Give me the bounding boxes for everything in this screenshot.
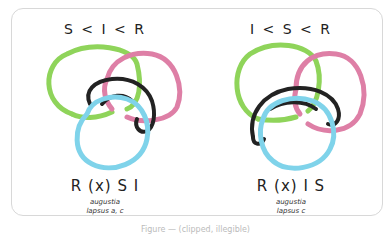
sub-label-1: augustia xyxy=(12,198,198,206)
black-strand xyxy=(88,79,154,132)
figure-frame: S < I < R R (x) S I augustia lapsus a, c… xyxy=(11,8,383,216)
knot-name: R (x) I S xyxy=(198,177,384,195)
knot-name: R (x) S I xyxy=(12,177,198,195)
green-strand xyxy=(237,45,319,119)
borromean-knot-diagram xyxy=(12,9,198,179)
left-panel: S < I < R R (x) S I augustia lapsus a, c xyxy=(12,9,198,217)
right-panel: I < S < R R (x) I S augustia lapsus c xyxy=(198,9,384,217)
sub-label-2: lapsus c xyxy=(198,207,384,215)
figure-caption: Figure — (clipped, illegible) xyxy=(0,225,391,234)
sub-label-1: augustia xyxy=(198,198,384,206)
sub-label-2: lapsus a, c xyxy=(12,207,198,215)
borromean-knot-diagram xyxy=(198,9,384,179)
